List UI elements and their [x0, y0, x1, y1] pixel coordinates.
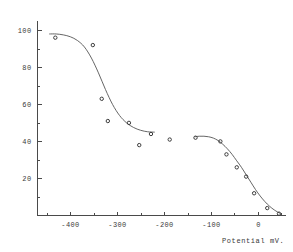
data-point: [225, 153, 228, 156]
y-axis-tick-label: 80: [22, 64, 31, 72]
x-axis-major-ticks: [71, 212, 259, 216]
data-point: [91, 43, 94, 46]
data-point: [149, 132, 152, 135]
data-point: [252, 192, 255, 195]
y-axis-tick-label: 20: [22, 175, 31, 183]
fitted-curves-group: [49, 34, 280, 214]
data-point: [100, 97, 103, 100]
x-axis-tick-label: -100: [202, 221, 220, 229]
y-axis-major-ticks: [38, 31, 42, 179]
data-point: [138, 143, 141, 146]
data-point: [266, 206, 269, 209]
scatter-plot-canvas: 20406080100 -400-300-200-1000 Potential …: [0, 0, 293, 252]
y-axis-tick-label: 60: [22, 101, 31, 109]
y-axis-tick-label: 40: [22, 138, 31, 146]
fitted-curve: [49, 34, 155, 132]
axes-group: [38, 21, 287, 216]
data-point: [168, 138, 171, 141]
y-axis-tick-labels: 20406080100: [18, 27, 32, 183]
x-axis-title: Potential mV.: [222, 237, 284, 245]
x-axis-tick-labels: -400-300-200-1000: [61, 221, 261, 229]
data-point: [235, 166, 238, 169]
x-axis-tick-label: 0: [256, 221, 261, 229]
data-point: [106, 119, 109, 122]
data-point: [127, 121, 130, 124]
x-axis-tick-label: -200: [155, 221, 173, 229]
y-axis-tick-label: 100: [18, 27, 32, 35]
x-axis-tick-label: -300: [108, 221, 126, 229]
data-points-group: [54, 36, 281, 215]
fitted-curve: [195, 136, 281, 213]
x-axis-tick-label: -400: [61, 221, 79, 229]
data-point: [54, 36, 57, 39]
chart-figure: 20406080100 -400-300-200-1000 Potential …: [0, 0, 293, 252]
